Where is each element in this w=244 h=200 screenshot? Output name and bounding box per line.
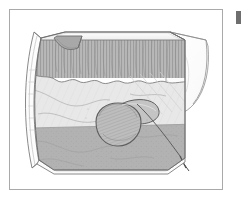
figure-frame: Cutaway illustration of a curved tissue … — [9, 9, 223, 190]
page-edge-mark — [236, 11, 241, 24]
anatomical-illustration — [10, 10, 224, 191]
screenshot-canvas: Cutaway illustration of a curved tissue … — [0, 0, 244, 200]
